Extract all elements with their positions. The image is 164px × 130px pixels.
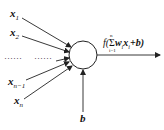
input-label-xn: xn bbox=[14, 95, 23, 109]
input-arrow-x2 bbox=[22, 36, 69, 52]
input-arrow-dots bbox=[56, 58, 69, 61]
input-label-x1: x1 bbox=[10, 8, 19, 22]
sum-symbol: Σni=1 bbox=[109, 38, 115, 48]
output-formula: f(Σni=1wixi+b) bbox=[103, 38, 144, 50]
bias-label: b bbox=[80, 113, 86, 124]
ellipsis-left: ······ bbox=[4, 54, 22, 63]
ellipsis-right: ······ bbox=[34, 54, 52, 63]
input-arrow-xn1 bbox=[26, 62, 69, 80]
input-label-xn-1: xn−1 bbox=[8, 76, 25, 90]
neuron-diagram-canvas bbox=[0, 0, 164, 130]
input-label-x2: x2 bbox=[10, 27, 19, 41]
neuron-node bbox=[69, 41, 97, 69]
input-arrow-x1 bbox=[22, 18, 71, 47]
